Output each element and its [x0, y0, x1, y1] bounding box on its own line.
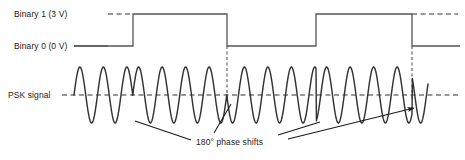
phase-shift-arrows [135, 104, 414, 140]
waveform-plot [0, 0, 465, 160]
digital-data-waveform [74, 14, 460, 46]
phase-shift-guide-lines [227, 46, 412, 100]
psk-diagram-figure: Binary 1 (3 V) Binary 0 (0 V) PSK signal… [0, 0, 465, 160]
